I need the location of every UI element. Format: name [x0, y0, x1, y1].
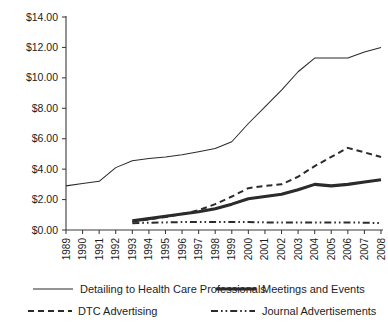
y-axis-tick-label: $6.00 — [32, 132, 58, 144]
legend-label: Meetings and Events — [262, 283, 365, 295]
x-axis-tick-label: 1992 — [110, 238, 121, 261]
y-axis-tick-label: $10.00 — [26, 71, 58, 83]
legend-label: Journal Advertisements — [262, 305, 377, 317]
y-axis-tick-label: $14.00 — [26, 11, 58, 23]
x-axis-tick-label: 1999 — [226, 238, 237, 261]
x-axis-tick-label: 1994 — [143, 238, 154, 261]
y-axis-tick-label: $8.00 — [32, 102, 58, 114]
x-axis-tick-label: 1990 — [77, 238, 88, 261]
x-axis-tick-label: 2004 — [309, 238, 320, 261]
x-axis-tick-label: 1991 — [94, 238, 105, 261]
x-axis-tick-label: 1989 — [61, 238, 72, 261]
x-axis-tick-label: 2001 — [259, 238, 270, 261]
y-axis-tick-label: $0.00 — [32, 224, 58, 236]
y-axis-tick-label: $2.00 — [32, 193, 58, 205]
x-axis-tick-label: 2007 — [359, 238, 370, 261]
x-axis-tick-label: 2008 — [376, 238, 387, 261]
x-axis-tick-label: 1998 — [210, 238, 221, 261]
y-axis-tick-label: $4.00 — [32, 163, 58, 175]
x-axis-tick-label: 2005 — [326, 238, 337, 261]
x-axis-tick-label: 1996 — [177, 238, 188, 261]
x-axis-tick-label: 2000 — [243, 238, 254, 261]
chart-svg: $0.00$2.00$4.00$6.00$8.00$10.00$12.00$14… — [0, 0, 388, 328]
legend-label: DTC Advertising — [78, 305, 157, 317]
chart-background — [0, 0, 388, 328]
x-axis-tick-label: 1993 — [127, 238, 138, 261]
line-chart: $0.00$2.00$4.00$6.00$8.00$10.00$12.00$14… — [0, 0, 388, 328]
x-axis-tick-label: 2006 — [342, 238, 353, 261]
x-axis-tick-label: 2002 — [276, 238, 287, 261]
x-axis-tick-label: 1997 — [193, 238, 204, 261]
y-axis-tick-label: $12.00 — [26, 41, 58, 53]
x-axis-tick-label: 1995 — [160, 238, 171, 261]
x-axis-tick-label: 2003 — [293, 238, 304, 261]
